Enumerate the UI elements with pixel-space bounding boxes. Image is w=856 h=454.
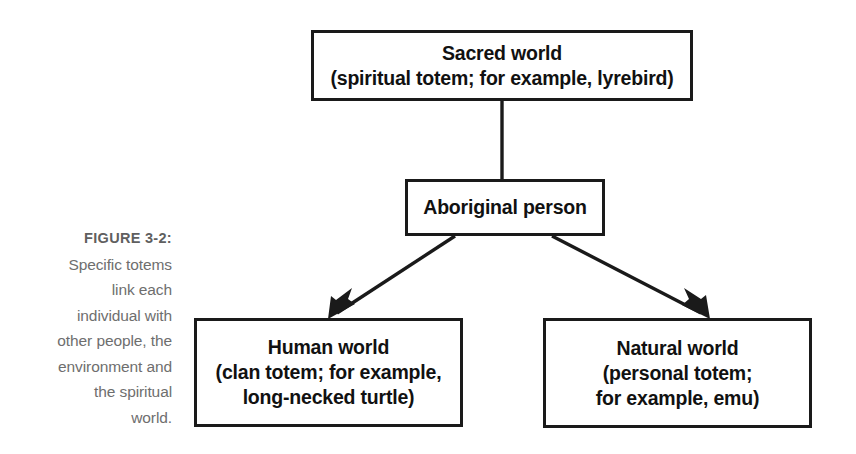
node-sacred-world: Sacred world (spiritual totem; for examp… bbox=[311, 30, 693, 101]
node-natural-world-line: (personal totem; bbox=[603, 361, 753, 386]
node-natural-world-line: Natural world bbox=[617, 336, 739, 361]
node-human-world-line: Human world bbox=[268, 335, 389, 360]
node-natural-world-line: for example, emu) bbox=[596, 386, 759, 411]
figure-page: FIGURE 3-2: Specific totems link each in… bbox=[0, 0, 856, 454]
node-natural-world: Natural world (personal totem; for examp… bbox=[543, 318, 812, 428]
connector-person-to-natural bbox=[552, 236, 710, 319]
node-human-world: Human world (clan totem; for example, lo… bbox=[194, 318, 463, 427]
node-aboriginal-person: Aboriginal person bbox=[405, 179, 605, 236]
node-human-world-line: long-necked turtle) bbox=[243, 385, 415, 410]
connector-person-to-human bbox=[328, 236, 455, 319]
node-sacred-world-line: Sacred world bbox=[442, 41, 562, 66]
node-sacred-world-line: (spiritual totem; for example, lyrebird) bbox=[330, 66, 673, 91]
node-human-world-line: (clan totem; for example, bbox=[216, 360, 442, 385]
node-aboriginal-person-line: Aboriginal person bbox=[423, 195, 586, 220]
